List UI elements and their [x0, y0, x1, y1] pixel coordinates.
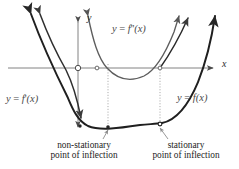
marker-fpp-root-left: [95, 66, 99, 70]
label-fp-arg: (x): [26, 93, 38, 104]
label-f-y: y: [177, 92, 182, 103]
x-axis-label: x: [222, 58, 226, 69]
label-function: y = f(x): [177, 92, 207, 104]
marker-stationary-inflection: [158, 122, 162, 126]
leader-lines-group: [103, 128, 168, 139]
marker-fpp-root-right: [158, 66, 162, 70]
label-fpp-eq: =: [119, 23, 125, 34]
y-axis-label: y: [87, 12, 91, 23]
curve-secondary-branch-path: [160, 18, 188, 68]
label-fp-y: y: [6, 93, 11, 104]
marker-non-stationary-inflection: [106, 125, 110, 129]
label-fp-eq: =: [13, 93, 19, 104]
axes-group: [8, 22, 213, 127]
annotation-non-stationary-line1: non-stationary: [28, 140, 140, 150]
label-first-derivative: y = f'(x): [6, 93, 38, 105]
markers-group: [75, 65, 162, 129]
leader-line-non-stationary: [103, 130, 108, 139]
label-fpp-arg: (x): [134, 23, 146, 34]
annotation-stationary: stationary point of inflection: [136, 140, 236, 161]
curve-first-derivative: [40, 14, 81, 118]
leader-line-stationary: [160, 128, 168, 139]
label-f-eq: =: [184, 92, 190, 103]
label-fpp-y: y: [112, 23, 117, 34]
curve-secondary-branch: [160, 18, 188, 68]
label-f-arg: (x): [196, 92, 208, 103]
annotation-non-stationary-line2: point of inflection: [28, 150, 140, 160]
marker-f-trough: [78, 124, 81, 127]
marker-origin: [75, 65, 80, 70]
annotation-stationary-line2: point of inflection: [136, 150, 236, 160]
label-second-derivative: y = f''(x): [112, 23, 146, 35]
guide-lines-group: [108, 64, 160, 128]
annotation-stationary-line1: stationary: [136, 140, 236, 150]
annotation-non-stationary: non-stationary point of inflection: [28, 140, 140, 161]
curve-first-derivative-path: [40, 14, 81, 118]
